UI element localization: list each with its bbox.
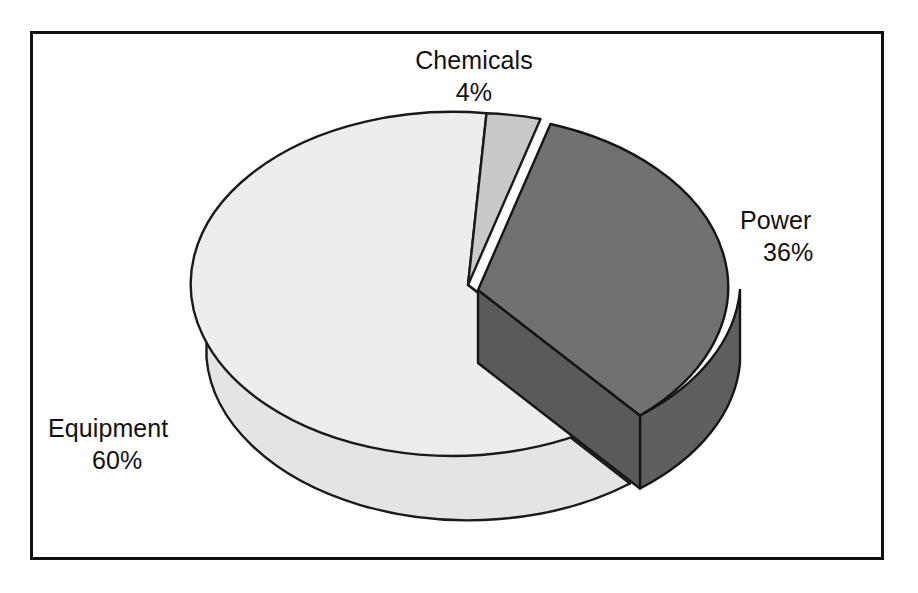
slice-label-chemicals: Chemicals 4% bbox=[364, 44, 584, 108]
slice-label-equipment-value: 60% bbox=[92, 444, 248, 476]
slice-label-power-name: Power bbox=[740, 204, 890, 236]
slice-label-chemicals-name: Chemicals bbox=[364, 44, 584, 76]
slice-label-chemicals-value: 4% bbox=[364, 76, 584, 108]
slice-label-power: Power 36% bbox=[740, 204, 890, 268]
pie-chart-figure: Chemicals 4% Power 36% Equipment 60% bbox=[0, 0, 918, 593]
slice-label-equipment: Equipment 60% bbox=[48, 412, 248, 476]
slice-label-equipment-name: Equipment bbox=[48, 412, 248, 444]
slice-label-power-value: 36% bbox=[763, 236, 890, 268]
